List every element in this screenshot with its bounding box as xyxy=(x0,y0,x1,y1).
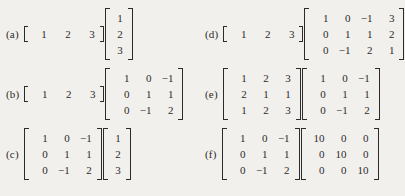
matrix-cell: 1 xyxy=(330,86,352,102)
matrix-cell: 10 xyxy=(329,146,351,162)
matrix-cell: 2 xyxy=(251,26,275,42)
matrix-row: 10−1 xyxy=(111,70,177,86)
column-vector: 123 xyxy=(105,8,133,60)
matrix-cell: 1 xyxy=(352,86,374,102)
matrix-cell: 0 xyxy=(329,162,351,178)
matrix-cell: 2 xyxy=(52,86,76,102)
matrix-row: 123 xyxy=(28,26,100,42)
matrix-row: 3 xyxy=(111,42,127,58)
matrix-cell: 2 xyxy=(52,26,76,42)
matrix-cell: 0 xyxy=(228,146,250,162)
matrix-cell: −1 xyxy=(332,42,354,58)
matrix-cell: 1 xyxy=(308,70,330,86)
exercise-label: (f) xyxy=(205,149,217,160)
matrix-row: 2 xyxy=(109,146,125,162)
matrix-row: 011 xyxy=(111,86,177,102)
matrix-cell: 0 xyxy=(133,70,155,86)
matrix-row: 123 xyxy=(28,86,100,102)
matrix-cell: 1 xyxy=(310,10,332,26)
matrix-cell: 2 xyxy=(272,162,294,178)
matrix-cell: 0 xyxy=(308,86,330,102)
exercise-item-f: (f)10−10110−12100001000010 xyxy=(205,128,380,180)
matrix-3x3: 10−10110−12 xyxy=(24,128,102,180)
matrix-cell: −1 xyxy=(74,130,96,146)
matrix-cell: −1 xyxy=(352,70,374,86)
matrix-cell: 1 xyxy=(52,146,74,162)
matrix-row: 10−13 xyxy=(310,10,398,26)
matrix-cell: 1 xyxy=(111,10,127,26)
matrix-cell: 3 xyxy=(109,162,125,178)
matrix-3x4: 10−1301120−121 xyxy=(304,8,404,60)
matrix-cell: 2 xyxy=(352,102,374,118)
matrix-cell: 1 xyxy=(28,26,52,42)
matrix-row: 2 xyxy=(111,26,127,42)
matrix-cell: 0 xyxy=(332,10,354,26)
matrix-row: 011 xyxy=(228,146,294,162)
matrix-cell: 3 xyxy=(376,10,398,26)
matrix-cell: 0 xyxy=(329,130,351,146)
matrix-cell: 0 xyxy=(307,146,329,162)
matrix-row: 0−121 xyxy=(310,42,398,58)
matrix-cell: −1 xyxy=(133,102,155,118)
matrix-cell: 1 xyxy=(354,26,376,42)
matrix-cell: 1 xyxy=(251,86,273,102)
matrix-row: 10−1 xyxy=(228,130,294,146)
exercise-item-d: (d)12310−1301120−121 xyxy=(205,8,405,60)
column-vector: 123 xyxy=(103,128,131,180)
matrix-cell: 2 xyxy=(354,42,376,58)
matrix-row: 10−1 xyxy=(30,130,96,146)
matrix-cell: −1 xyxy=(272,130,294,146)
matrix-row: 0−12 xyxy=(111,102,177,118)
matrix-cell: 1 xyxy=(227,26,251,42)
matrix-cell: 0 xyxy=(310,26,332,42)
matrix-cell: 2 xyxy=(74,162,96,178)
matrix-cell: 2 xyxy=(229,86,251,102)
matrix-row: 211 xyxy=(229,86,295,102)
matrix-cell: 0 xyxy=(351,146,373,162)
matrix-cell: 1 xyxy=(229,102,251,118)
matrix-row: 0112 xyxy=(310,26,398,42)
matrix-cell: 2 xyxy=(109,146,125,162)
matrix-cell: 0 xyxy=(30,146,52,162)
exercise-item-a: (a)123123 xyxy=(6,8,134,60)
matrix-cell: 1 xyxy=(28,86,52,102)
matrix-cell: 3 xyxy=(76,26,100,42)
matrix-3x3: 123211123 xyxy=(223,68,301,120)
matrix-cell: 3 xyxy=(273,70,295,86)
matrix-row: 0010 xyxy=(307,162,373,178)
matrix-cell: 0 xyxy=(308,102,330,118)
matrix-cell: 1 xyxy=(74,146,96,162)
exercise-label: (a) xyxy=(6,29,19,40)
matrix-cell: 2 xyxy=(251,70,273,86)
matrix-cell: −1 xyxy=(330,102,352,118)
matrix-cell: 1 xyxy=(30,130,52,146)
matrix-row: 0−12 xyxy=(228,162,294,178)
matrix-cell: 1 xyxy=(273,86,295,102)
matrix-row: 011 xyxy=(30,146,96,162)
matrix-cell: 2 xyxy=(376,26,398,42)
exercise-label: (b) xyxy=(6,89,19,100)
matrix-cell: 1 xyxy=(109,130,125,146)
exercise-label: (e) xyxy=(205,89,218,100)
matrix-cell: 1 xyxy=(376,42,398,58)
matrix-cell: 2 xyxy=(251,102,273,118)
matrix-cell: 0 xyxy=(310,42,332,58)
diagonal-matrix-3x3: 100001000010 xyxy=(301,128,379,180)
matrix-3x3: 10−10110−12 xyxy=(105,68,183,120)
matrix-cell: 0 xyxy=(111,102,133,118)
matrix-cell: 10 xyxy=(307,130,329,146)
matrix-cell: 3 xyxy=(76,86,100,102)
matrix-cell: 1 xyxy=(228,130,250,146)
matrix-row: 0−12 xyxy=(308,102,374,118)
matrix-cell: 1 xyxy=(111,70,133,86)
matrix-row: 123 xyxy=(227,26,299,42)
matrix-cell: 3 xyxy=(273,102,295,118)
exercise-label: (d) xyxy=(205,29,218,40)
matrix-cell: 0 xyxy=(307,162,329,178)
matrix-cell: 1 xyxy=(250,146,272,162)
row-vector: 123 xyxy=(24,86,104,102)
matrix-cell: 0 xyxy=(30,162,52,178)
matrix-cell: 1 xyxy=(332,26,354,42)
exercise-item-e: (e)12321112310−10110−12 xyxy=(205,68,381,120)
